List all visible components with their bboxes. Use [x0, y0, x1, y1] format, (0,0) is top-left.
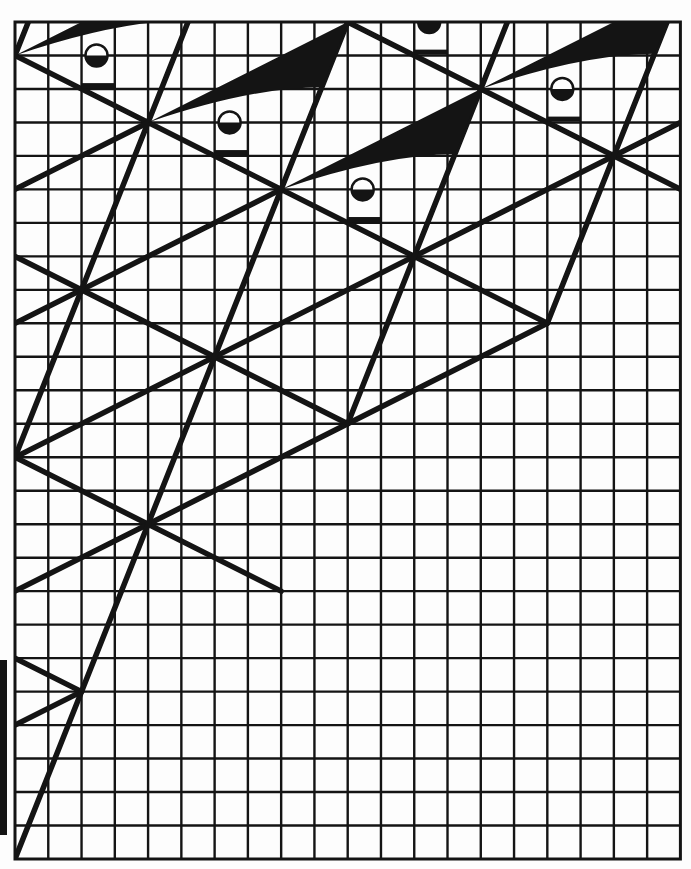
wing-2-bar: [215, 150, 248, 155]
wing-5-circle: [551, 78, 573, 100]
grid-diagram: [0, 0, 691, 869]
left-margin-bar: [0, 660, 7, 835]
wing-3-bar: [348, 217, 381, 222]
wing-1-circle: [86, 44, 108, 66]
wing-1-bar: [82, 83, 115, 88]
wing-2-circle: [219, 111, 241, 133]
wing-3-circle: [352, 178, 374, 200]
wing-4: [348, 0, 548, 22]
grid-lines: [15, 22, 680, 859]
wing-4-bar: [414, 50, 447, 55]
wing-5-bar: [547, 117, 580, 122]
